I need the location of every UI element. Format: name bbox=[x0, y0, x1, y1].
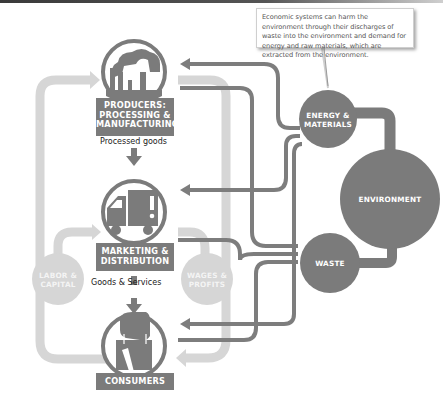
wages-label-line: WAGES & bbox=[181, 271, 233, 280]
arrowhead-icon bbox=[176, 349, 186, 367]
energy-to-marketing-flow bbox=[190, 136, 300, 190]
marketing-label: MARKETING & DISTRIBUTION bbox=[96, 247, 174, 266]
arrowhead-icon bbox=[90, 71, 100, 89]
arrowhead-icon bbox=[180, 184, 190, 196]
producers-label: PRODUCERS: PROCESSING & MANUFACTURING bbox=[96, 101, 174, 130]
consumers-label: CONSUMERS bbox=[96, 377, 174, 387]
processed-goods-label: Processed goods bbox=[100, 137, 167, 146]
arrowhead-icon bbox=[180, 318, 190, 330]
waste-label: WASTE bbox=[305, 259, 355, 268]
energy-to-producers-flow bbox=[190, 64, 300, 128]
arrowhead-icon bbox=[126, 156, 142, 166]
producers-to-wages-flow bbox=[178, 80, 226, 358]
labor-capital-label: LABOR & CAPITAL bbox=[32, 271, 84, 289]
wages-label-line: PROFITS bbox=[181, 280, 233, 289]
goods-services-label: Goods & Services bbox=[91, 278, 161, 287]
arrowhead-icon bbox=[180, 58, 190, 70]
producers-label-line: MANUFACTURING bbox=[96, 120, 174, 130]
energy-materials-label: ENERGY & MATERIALS bbox=[298, 111, 358, 129]
energy-label-line: ENERGY & bbox=[298, 111, 358, 120]
labor-label-line: CAPITAL bbox=[32, 280, 84, 289]
wages-profits-label: WAGES & PROFITS bbox=[181, 271, 233, 289]
marketing-label-line: DISTRIBUTION bbox=[96, 257, 174, 267]
energy-label-line: MATERIALS bbox=[298, 120, 358, 129]
arrowhead-icon bbox=[92, 224, 101, 240]
environment-label: ENVIRONMENT bbox=[345, 195, 435, 204]
shopping-bag-icon bbox=[116, 312, 152, 374]
labor-label-line: LABOR & bbox=[32, 271, 84, 280]
callout-box: Economic systems can harm the environmen… bbox=[256, 8, 414, 48]
